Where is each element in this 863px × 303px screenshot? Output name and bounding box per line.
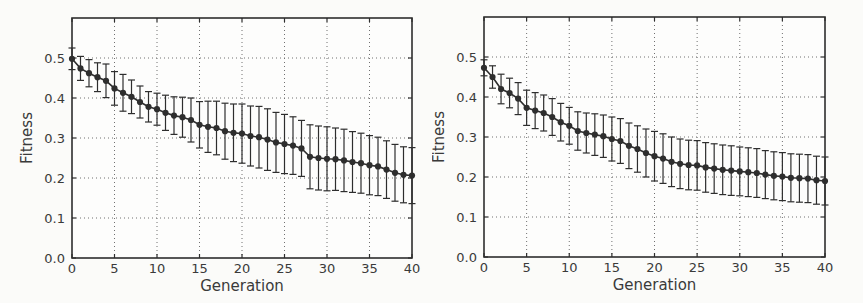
data-point-marker (643, 150, 649, 156)
x-tick-label: 40 (817, 260, 834, 275)
y-tick-label: 0.1 (44, 211, 65, 226)
y-tick-label: 0.4 (44, 91, 65, 106)
x-tick-label: 10 (149, 261, 166, 276)
data-point-marker (651, 153, 657, 159)
x-tick-label: 5 (110, 261, 118, 276)
data-point-marker (737, 168, 743, 174)
data-point-marker (600, 133, 606, 139)
fitness-vs-generation-figure: 05101520253035400.00.10.20.30.40.5Genera… (0, 0, 863, 303)
data-point-marker (796, 175, 802, 181)
y-tick-label: 0.2 (456, 170, 477, 185)
data-point-marker (264, 137, 270, 143)
data-point-marker (524, 105, 530, 111)
x-tick-label: 0 (68, 261, 76, 276)
data-point-marker (94, 74, 100, 80)
data-point-marker (137, 99, 143, 105)
data-point-marker (145, 104, 151, 110)
data-point-marker (128, 94, 134, 100)
x-tick-label: 15 (604, 260, 621, 275)
data-point-marker (205, 124, 211, 130)
y-tick-label: 0.0 (44, 251, 65, 266)
data-point-marker (754, 170, 760, 176)
data-point-marker (558, 119, 564, 125)
x-tick-label: 20 (234, 261, 251, 276)
data-point-marker (686, 162, 692, 168)
data-point-marker (366, 162, 372, 168)
data-point-marker (762, 172, 768, 178)
data-point-marker (222, 128, 228, 134)
y-tick-label: 0.1 (456, 210, 477, 225)
y-tick-label: 0.5 (456, 50, 477, 65)
data-point-marker (290, 143, 296, 149)
data-point-marker (111, 85, 117, 91)
data-point-marker (677, 161, 683, 167)
y-tick-label: 0.3 (44, 131, 65, 146)
x-tick-label: 25 (276, 261, 293, 276)
data-point-marker (805, 176, 811, 182)
x-tick-label: 0 (480, 260, 488, 275)
data-point-marker (400, 172, 406, 178)
data-point-marker (532, 108, 538, 114)
data-point-marker (771, 173, 777, 179)
data-point-marker (196, 122, 202, 128)
data-point-marker (617, 138, 623, 144)
x-tick-label: 20 (646, 260, 663, 275)
x-tick-label: 30 (319, 261, 336, 276)
data-point-marker (703, 164, 709, 170)
data-point-marker (307, 154, 313, 160)
x-tick-label: 35 (774, 260, 791, 275)
data-point-marker (720, 167, 726, 173)
data-point-marker (694, 162, 700, 168)
data-point-marker (315, 155, 321, 161)
x-axis-label: Generation (613, 276, 697, 294)
data-point-marker (634, 146, 640, 152)
data-point-marker (281, 141, 287, 147)
data-point-marker (239, 131, 245, 137)
x-tick-label: 25 (689, 260, 706, 275)
data-point-marker (171, 113, 177, 119)
data-point-marker (247, 133, 253, 139)
data-point-marker (515, 96, 521, 102)
data-point-marker (273, 139, 279, 145)
data-point-marker (86, 70, 92, 76)
data-point-marker (120, 90, 126, 96)
data-point-marker (179, 114, 185, 120)
fitness-chart-left: 05101520253035400.00.10.20.30.40.5Genera… (0, 0, 432, 303)
x-tick-label: 15 (191, 261, 208, 276)
data-point-marker (711, 166, 717, 172)
x-tick-label: 30 (731, 260, 748, 275)
data-point-marker (575, 128, 581, 134)
data-point-marker (566, 123, 572, 129)
data-point-marker (813, 177, 819, 183)
data-point-marker (549, 114, 555, 120)
data-point-marker (592, 132, 598, 138)
x-tick-label: 5 (522, 260, 530, 275)
y-tick-label: 0.2 (44, 171, 65, 186)
data-point-marker (609, 136, 615, 142)
data-point-marker (745, 169, 751, 175)
data-point-marker (660, 156, 666, 162)
data-point-marker (541, 110, 547, 116)
data-point-marker (668, 159, 674, 165)
y-tick-label: 0.4 (456, 90, 477, 105)
x-tick-label: 35 (361, 261, 378, 276)
data-point-marker (332, 156, 338, 162)
data-point-marker (349, 159, 355, 165)
data-point-marker (213, 125, 219, 131)
data-point-marker (788, 175, 794, 181)
data-point-marker (583, 130, 589, 136)
y-axis-label: Fitness (432, 111, 448, 163)
data-point-marker (154, 106, 160, 112)
data-point-marker (626, 143, 632, 149)
data-point-marker (256, 134, 262, 140)
data-point-marker (498, 86, 504, 92)
y-axis-label: Fitness (18, 112, 36, 164)
x-tick-label: 10 (561, 260, 578, 275)
data-point-marker (358, 160, 364, 166)
fitness-chart-right: 05101520253035400.00.10.20.30.40.5Genera… (432, 0, 863, 303)
data-point-marker (103, 78, 109, 84)
data-point-marker (728, 168, 734, 174)
data-point-marker (324, 156, 330, 162)
x-tick-label: 40 (404, 261, 421, 276)
data-point-marker (779, 174, 785, 180)
